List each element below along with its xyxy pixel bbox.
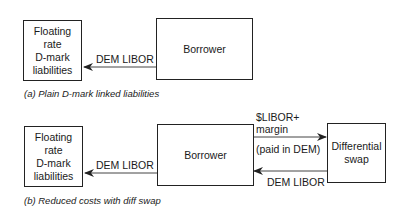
panel-b-borrower-box: Borrower — [157, 124, 254, 186]
box-line: D-mark — [33, 51, 73, 64]
panel-a-borrower-box: Borrower — [156, 18, 253, 80]
panel-b-arrow-from-swap-label: DEM LIBOR — [267, 176, 325, 188]
panel-b-arrow-to-swap-label: $LIBOR+ margin — [256, 111, 299, 135]
label-line: $LIBOR+ — [256, 111, 299, 123]
box-line: Differential — [332, 140, 382, 153]
panel-a-caption: (a) Plain D-mark linked liabilities — [24, 88, 159, 99]
box-line: liabilities — [34, 170, 74, 183]
panel-b-swap-box: Differential swap — [327, 123, 386, 183]
box-line: Floating — [34, 131, 74, 144]
panel-b-arrow-left-label: DEM LIBOR — [96, 159, 154, 171]
panel-b-caption: (b) Reduced costs with diff swap — [24, 195, 161, 206]
box-line: Floating — [33, 25, 73, 38]
box-line: swap — [332, 153, 382, 166]
panel-a-arrow-label: DEM LIBOR — [96, 53, 154, 65]
label-line: margin — [256, 123, 299, 135]
panel-b-arrow-to-swap-note: (paid in DEM) — [256, 143, 320, 155]
box-line: D-mark — [34, 157, 74, 170]
box-line: rate — [33, 38, 73, 51]
panel-b-liabilities-box: Floating rate D-mark liabilities — [24, 126, 83, 187]
box-line: rate — [34, 144, 74, 157]
borrower-label: Borrower — [183, 43, 226, 56]
box-line: liabilities — [33, 64, 73, 77]
panel-a-liabilities-box: Floating rate D-mark liabilities — [23, 20, 82, 81]
borrower-label: Borrower — [184, 149, 227, 162]
